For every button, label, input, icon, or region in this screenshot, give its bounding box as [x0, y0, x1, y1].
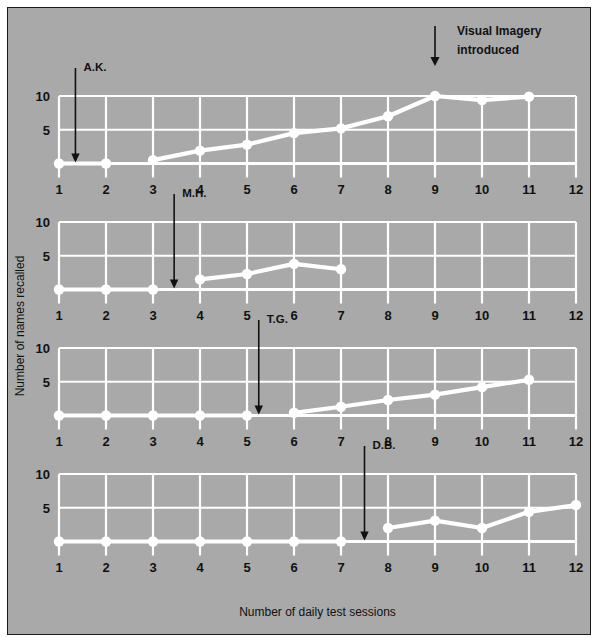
intervention-arrow-head [255, 406, 263, 415]
data-point-1[interactable] [54, 410, 64, 420]
panel-mh: 510123456789101112M.H. [36, 187, 584, 323]
x-tick-label-10: 10 [475, 434, 489, 449]
data-point-5[interactable] [242, 536, 252, 546]
data-point-9[interactable] [430, 515, 440, 525]
data-point-6[interactable] [289, 536, 299, 546]
panel-tg: 510123456789101112T.G. [36, 313, 584, 449]
data-point-9[interactable] [430, 389, 440, 399]
x-tick-label-10: 10 [475, 308, 489, 323]
data-point-11[interactable] [524, 375, 534, 385]
x-tick-label-7: 7 [337, 308, 344, 323]
x-tick-label-6: 6 [290, 182, 297, 197]
data-point-2[interactable] [101, 536, 111, 546]
x-tick-label-3: 3 [149, 308, 156, 323]
x-tick-label-12: 12 [569, 308, 583, 323]
series-segment-treatment [294, 380, 529, 413]
x-tick-label-4: 4 [196, 560, 204, 575]
y-tick-label-5: 5 [43, 249, 50, 264]
figure-frame: 510123456789101112A.K.510123456789101112… [7, 7, 591, 635]
data-point-10[interactable] [477, 95, 487, 105]
x-tick-label-7: 7 [337, 182, 344, 197]
data-point-10[interactable] [477, 523, 487, 533]
x-tick-label-3: 3 [149, 434, 156, 449]
data-point-8[interactable] [383, 395, 393, 405]
y-axis-title: Number of names recalled [13, 256, 27, 397]
data-point-7[interactable] [336, 402, 346, 412]
data-point-1[interactable] [54, 284, 64, 294]
data-point-3[interactable] [148, 536, 158, 546]
x-tick-label-2: 2 [102, 308, 109, 323]
y-tick-label-5: 5 [43, 501, 50, 516]
x-tick-label-1: 1 [55, 182, 62, 197]
x-tick-label-9: 9 [431, 434, 438, 449]
x-tick-label-9: 9 [431, 308, 438, 323]
intervention-arrow-head [170, 280, 178, 289]
subject-label-tg: T.G. [267, 313, 288, 325]
panel-db: 510123456789101112D.B. [36, 439, 584, 575]
data-point-3[interactable] [148, 410, 158, 420]
data-point-3[interactable] [148, 284, 158, 294]
y-tick-label-5: 5 [43, 375, 50, 390]
subject-label-mh: M.H. [182, 187, 206, 199]
series-segment-treatment [200, 264, 341, 280]
panel-ak: 510123456789101112A.K. [36, 61, 584, 197]
data-point-1[interactable] [54, 536, 64, 546]
data-point-4[interactable] [195, 410, 205, 420]
data-point-3[interactable] [148, 155, 158, 165]
x-axis-title: Number of daily test sessions [239, 605, 396, 619]
y-tick-label-10: 10 [36, 89, 50, 104]
data-point-11[interactable] [524, 507, 534, 517]
data-point-4[interactable] [195, 274, 205, 284]
data-point-8[interactable] [383, 523, 393, 533]
x-tick-label-2: 2 [102, 560, 109, 575]
x-tick-label-4: 4 [196, 434, 204, 449]
y-tick-label-10: 10 [36, 215, 50, 230]
data-point-6[interactable] [289, 408, 299, 418]
x-tick-label-5: 5 [243, 434, 250, 449]
x-tick-label-7: 7 [337, 560, 344, 575]
data-point-5[interactable] [242, 410, 252, 420]
data-point-4[interactable] [195, 145, 205, 155]
data-point-1[interactable] [54, 158, 64, 168]
data-point-9[interactable] [430, 91, 440, 101]
data-point-11[interactable] [524, 91, 534, 101]
visual-imagery-label-line2: introduced [457, 43, 519, 57]
data-point-2[interactable] [101, 158, 111, 168]
data-point-12[interactable] [571, 500, 581, 510]
x-tick-label-8: 8 [384, 560, 391, 575]
x-tick-label-5: 5 [243, 308, 250, 323]
x-tick-label-5: 5 [243, 182, 250, 197]
x-tick-label-11: 11 [522, 308, 536, 323]
data-point-2[interactable] [101, 284, 111, 294]
x-tick-label-3: 3 [149, 182, 156, 197]
intervention-arrow-head [71, 154, 79, 163]
x-tick-label-6: 6 [290, 434, 297, 449]
x-tick-label-6: 6 [290, 308, 297, 323]
data-point-6[interactable] [289, 128, 299, 138]
x-tick-label-2: 2 [102, 434, 109, 449]
data-point-4[interactable] [195, 536, 205, 546]
y-tick-label-10: 10 [36, 467, 50, 482]
x-tick-label-2: 2 [102, 182, 109, 197]
data-point-7[interactable] [336, 264, 346, 274]
visual-imagery-annotation: Visual Imageryintroduced [430, 24, 541, 66]
subject-label-ak: A.K. [83, 61, 106, 73]
y-tick-label-10: 10 [36, 341, 50, 356]
data-point-8[interactable] [383, 111, 393, 121]
data-point-7[interactable] [336, 123, 346, 133]
x-tick-label-12: 12 [569, 560, 583, 575]
x-tick-label-9: 9 [431, 182, 438, 197]
x-tick-label-10: 10 [475, 182, 489, 197]
data-point-6[interactable] [289, 259, 299, 269]
data-point-5[interactable] [242, 269, 252, 279]
x-tick-label-6: 6 [290, 560, 297, 575]
data-point-5[interactable] [242, 139, 252, 149]
data-point-2[interactable] [101, 410, 111, 420]
data-point-10[interactable] [477, 382, 487, 392]
x-tick-label-8: 8 [384, 308, 391, 323]
x-tick-label-12: 12 [569, 434, 583, 449]
data-point-7[interactable] [336, 536, 346, 546]
x-tick-label-3: 3 [149, 560, 156, 575]
subject-label-db: D.B. [373, 439, 396, 451]
x-tick-label-11: 11 [522, 560, 536, 575]
